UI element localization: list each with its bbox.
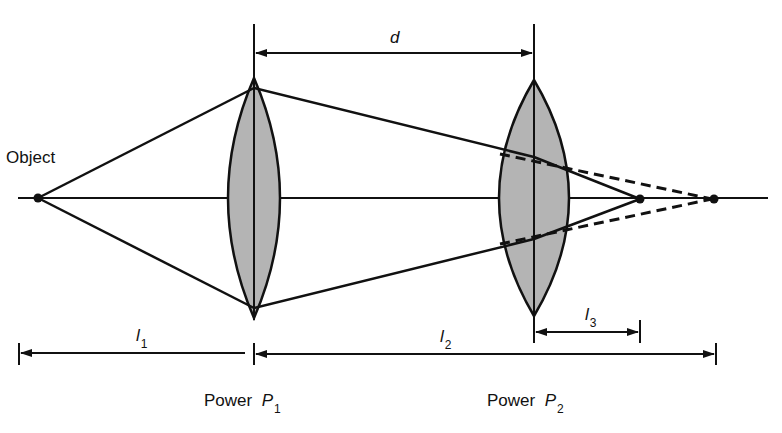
l1-subscript: 1 xyxy=(141,337,148,351)
l1-label: l1 xyxy=(136,326,147,346)
object-label: Object xyxy=(6,148,55,168)
lens1-power-prefix: Power xyxy=(204,391,252,410)
lens2-power-label: Power P2 xyxy=(487,391,564,411)
l3-label: l3 xyxy=(585,305,596,325)
l2-label: l2 xyxy=(440,327,451,347)
l3-subscript: 3 xyxy=(590,316,597,330)
lens2-power-symbol: P xyxy=(545,391,556,410)
virtual-image-point xyxy=(710,195,719,204)
lens1-power-subscript: 1 xyxy=(274,402,281,416)
l3-symbol: l xyxy=(585,305,589,324)
lens-diagram xyxy=(0,0,782,433)
lens2-power-prefix: Power xyxy=(487,391,535,410)
lens1-power-symbol: P xyxy=(262,391,273,410)
l2-subscript: 2 xyxy=(445,338,452,352)
object-point xyxy=(34,194,43,203)
l1-symbol: l xyxy=(136,326,140,345)
lens2-power-subscript: 2 xyxy=(557,402,564,416)
lens1-power-label: Power P1 xyxy=(204,391,281,411)
d-label: d xyxy=(390,28,399,48)
l2-symbol: l xyxy=(440,327,444,346)
image-point xyxy=(636,195,645,204)
